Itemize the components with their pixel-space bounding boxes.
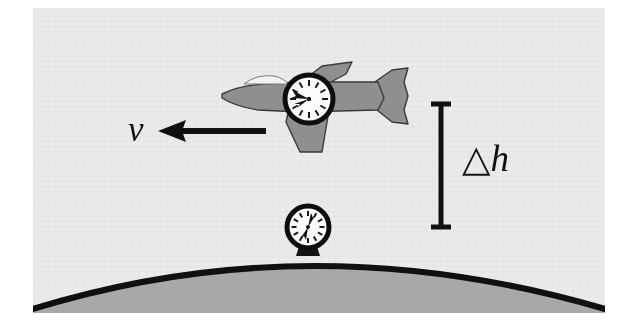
earth-body	[30, 267, 608, 320]
altitude-difference-label: △h	[462, 140, 509, 177]
altitude-bracket	[431, 103, 451, 228]
airplane-clock	[285, 75, 333, 123]
velocity-label: v	[128, 112, 144, 147]
ground-clock-hub	[306, 225, 310, 229]
airplane-clock-hub	[307, 97, 311, 101]
figure-screenshot: v △h	[0, 0, 629, 331]
velocity-arrow-head	[158, 120, 186, 142]
velocity-arrow	[158, 120, 266, 142]
ground-clock	[287, 206, 329, 256]
airplane-canopy	[244, 76, 288, 84]
earth-group	[30, 266, 608, 320]
physics-diagram	[0, 0, 629, 331]
